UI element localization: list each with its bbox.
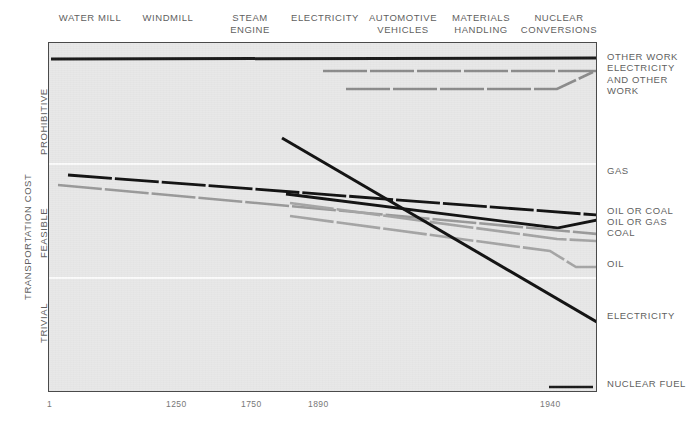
era-header: NUCLEAR CONVERSIONS bbox=[509, 12, 609, 35]
era-header-label: WATER MILL bbox=[59, 12, 122, 23]
series-label-electricity-and-other-work: ELECTRICITY AND OTHER WORK bbox=[607, 62, 675, 97]
x-tick-label: 1890 bbox=[308, 399, 329, 409]
era-header-label: ELECTRICITY bbox=[291, 12, 359, 23]
x-tick-label: 1 bbox=[47, 399, 52, 409]
chart-root: WATER MILL WINDMILL STEAM ENGINE ELECTRI… bbox=[0, 0, 700, 421]
y-axis-title-label: TRANSPORTATION COST bbox=[22, 174, 33, 300]
series-label-text: COAL bbox=[607, 227, 635, 238]
y-axis-title: TRANSPORTATION COST bbox=[22, 174, 33, 300]
series-line bbox=[346, 72, 593, 89]
series-label-electricity: ELECTRICITY bbox=[607, 310, 675, 322]
era-header-label: AUTOMOTIVE VEHICLES bbox=[369, 12, 437, 35]
era-header-label: WINDMILL bbox=[143, 12, 194, 23]
era-header-label: NUCLEAR CONVERSIONS bbox=[521, 12, 597, 35]
series-label-oil-or-gas: OIL OR GAS bbox=[607, 216, 667, 228]
series-label-oil: OIL bbox=[607, 258, 624, 270]
x-tick-label: 1250 bbox=[166, 399, 187, 409]
series-line bbox=[51, 58, 596, 59]
series-label-text: OTHER WORK bbox=[607, 51, 678, 62]
plot-area bbox=[48, 42, 597, 392]
series-layer bbox=[51, 58, 596, 387]
series-label-text: OIL OR GAS bbox=[607, 216, 667, 227]
series-label-oil-or-coal: OIL OR COAL bbox=[607, 205, 673, 217]
series-label-text: ELECTRICITY bbox=[607, 310, 675, 321]
series-label-text: ELECTRICITY AND OTHER WORK bbox=[607, 62, 675, 96]
plot-canvas bbox=[49, 43, 596, 391]
x-tick: 1250 bbox=[166, 399, 187, 409]
x-tick: 1940 bbox=[540, 399, 561, 409]
series-label-coal: COAL bbox=[607, 227, 635, 239]
x-tick: 1750 bbox=[241, 399, 262, 409]
era-header-label: MATERIALS HANDLING bbox=[452, 12, 510, 35]
series-label-text: OIL bbox=[607, 258, 624, 269]
x-tick-label: 1750 bbox=[241, 399, 262, 409]
series-label-text: OIL OR COAL bbox=[607, 205, 673, 216]
series-label-gas: GAS bbox=[607, 165, 629, 177]
x-tick: 1 bbox=[47, 399, 52, 409]
series-label-text: NUCLEAR FUEL bbox=[607, 378, 686, 389]
series-label-text: GAS bbox=[607, 165, 629, 176]
era-header-label: STEAM ENGINE bbox=[230, 12, 270, 35]
x-tick: 1890 bbox=[308, 399, 329, 409]
series-label-nuclear-fuel: NUCLEAR FUEL bbox=[607, 378, 686, 390]
x-tick-label: 1940 bbox=[540, 399, 561, 409]
series-label-other-work: OTHER WORK bbox=[607, 51, 678, 63]
